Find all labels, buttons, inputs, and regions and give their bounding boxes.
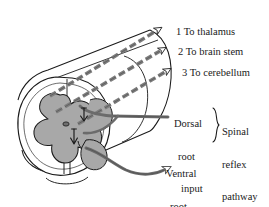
tract-label-1-to-thalamus: 1 To thalamus bbox=[176, 27, 235, 38]
brace-label-line-1: Spinal bbox=[222, 127, 258, 138]
ventral-root-label-line-2: root bbox=[166, 202, 197, 207]
spinal-reflex-pathway-brace bbox=[213, 108, 219, 142]
brace-label-line-3: pathway bbox=[222, 192, 258, 203]
spinal-reflex-pathway-label: Spinal reflex pathway bbox=[222, 106, 258, 207]
ventral-root-output-label: Ventral root output bbox=[166, 148, 197, 207]
tract-label-3-to-cerebellum: 3 To cerebellum bbox=[182, 68, 250, 79]
dorsal-root-label-line-1: Dorsal bbox=[174, 119, 203, 130]
spinal-cord-diagram: 1 To thalamus 2 To brain stem 3 To cereb… bbox=[0, 0, 269, 207]
tract-label-2-to-brain-stem: 2 To brain stem bbox=[178, 47, 243, 58]
ventral-root-label-line-1: Ventral bbox=[166, 169, 197, 180]
brace-label-line-2: reflex bbox=[222, 160, 258, 171]
